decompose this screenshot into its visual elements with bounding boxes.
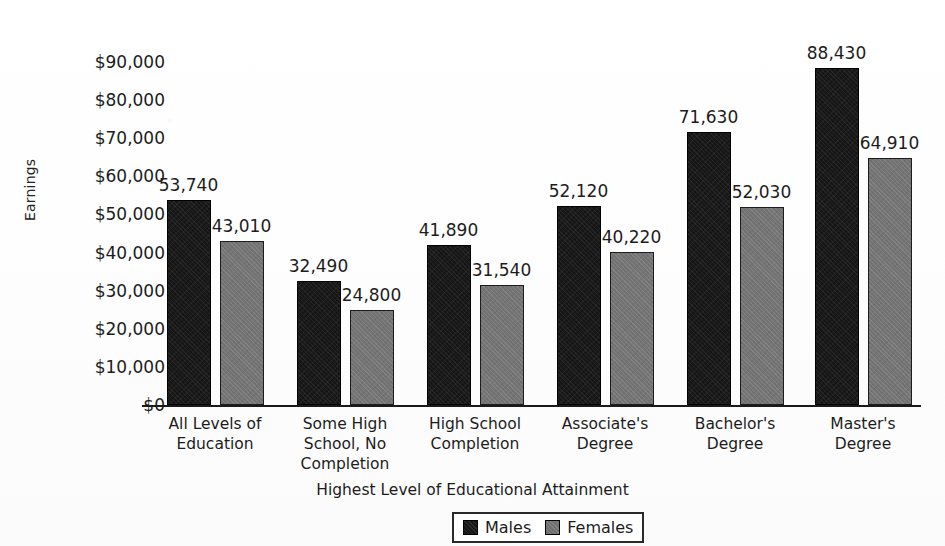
y-axis-zero-tick	[142, 405, 158, 407]
bar-female	[610, 252, 654, 405]
bar-male	[297, 281, 341, 405]
bar-female	[480, 285, 524, 405]
bar-female	[868, 158, 912, 405]
bar-value-label: 53,740	[159, 175, 218, 195]
x-axis-title: Highest Level of Educational Attainment	[0, 481, 945, 499]
bar-value-label: 88,430	[807, 43, 866, 63]
x-axis-line	[158, 405, 921, 407]
x-axis-category-label: Associate's Degree	[562, 414, 649, 454]
x-axis-category-label: Bachelor's Degree	[695, 414, 776, 454]
bar-female	[350, 310, 394, 405]
x-axis-category-label: High School Completion	[429, 414, 521, 454]
bar-male	[557, 206, 601, 405]
bar-value-label: 41,890	[419, 220, 478, 240]
x-axis-category-label: Master's Degree	[822, 414, 904, 454]
bar-male	[167, 200, 211, 405]
legend-label: Females	[567, 518, 633, 537]
bar-male	[687, 132, 731, 405]
legend-entry-males: Males	[463, 518, 531, 537]
legend-label: Males	[485, 518, 531, 537]
bar-female	[740, 207, 784, 405]
bar-value-label: 32,490	[289, 256, 348, 276]
bar-female	[220, 241, 264, 405]
x-axis-category-label: All Levels of Education	[169, 414, 262, 454]
bar-male	[427, 245, 471, 405]
plot-area: 53,74043,010All Levels of Education32,49…	[0, 0, 945, 546]
bar-value-label: 43,010	[212, 216, 271, 236]
bar-value-label: 52,120	[549, 181, 608, 201]
bar-value-label: 31,540	[472, 260, 531, 280]
x-axis-category-label: Some High School, No Completion	[301, 414, 390, 474]
chart-legend: MalesFemales	[452, 512, 644, 543]
bar-value-label: 24,800	[342, 285, 401, 305]
legend-swatch-female	[545, 520, 560, 535]
bar-chart: Earnings $0$10,000$20,000$30,000$40,000$…	[0, 0, 945, 546]
bar-value-label: 64,910	[860, 133, 919, 153]
bar-value-label: 52,030	[732, 182, 791, 202]
bar-male	[815, 68, 859, 405]
bar-value-label: 40,220	[602, 227, 661, 247]
legend-entry-females: Females	[545, 518, 633, 537]
legend-swatch-male	[463, 520, 478, 535]
bar-value-label: 71,630	[679, 107, 738, 127]
